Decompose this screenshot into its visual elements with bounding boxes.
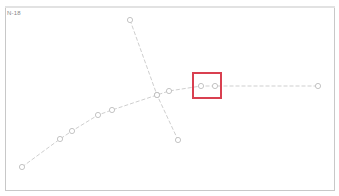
route-node[interactable] — [166, 88, 171, 93]
highlight-selection-box[interactable] — [192, 72, 222, 99]
route-node[interactable] — [95, 112, 100, 117]
crossing-route-path — [127, 17, 180, 142]
main-route-path — [19, 83, 320, 169]
route-node[interactable] — [315, 83, 320, 88]
route-node[interactable] — [69, 128, 74, 133]
route-node[interactable] — [127, 17, 132, 22]
route-node[interactable] — [154, 92, 159, 97]
route-node[interactable] — [19, 164, 24, 169]
route-node[interactable] — [57, 136, 62, 141]
route-node[interactable] — [175, 137, 180, 142]
route-canvas — [0, 0, 339, 196]
route-node[interactable] — [109, 107, 114, 112]
